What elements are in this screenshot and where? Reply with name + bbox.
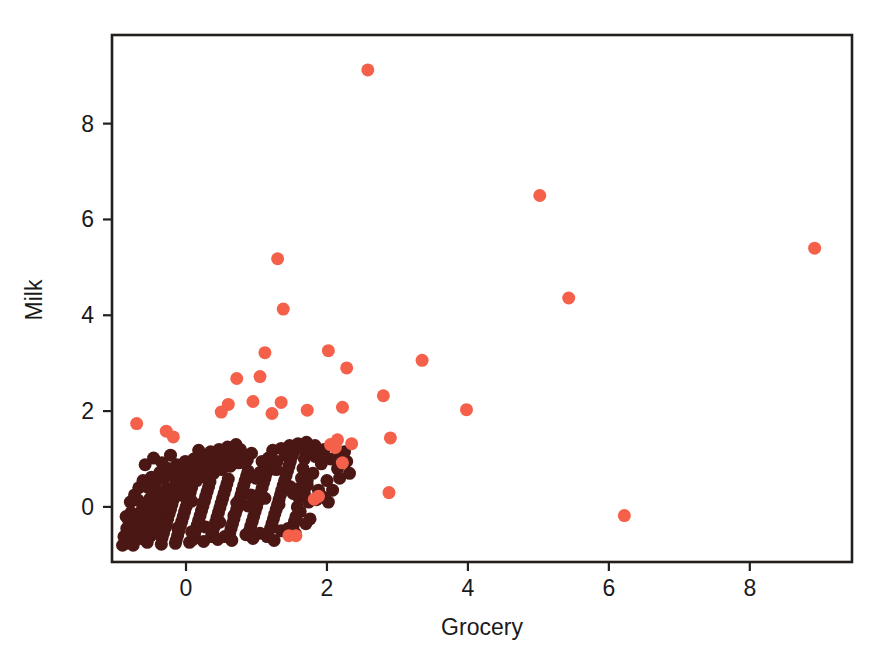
data-point	[213, 516, 226, 529]
data-point	[192, 444, 205, 457]
x-tick-label: 6	[602, 575, 615, 601]
data-point	[185, 525, 198, 538]
data-point	[562, 292, 575, 305]
y-tick-label: 6	[81, 206, 94, 232]
data-point	[155, 538, 168, 551]
data-point	[345, 437, 358, 450]
data-point	[120, 510, 133, 523]
data-point	[246, 395, 259, 408]
data-point	[130, 417, 143, 430]
data-point	[460, 403, 473, 416]
data-point	[132, 494, 145, 507]
data-point	[361, 63, 374, 76]
x-tick-label: 2	[321, 575, 334, 601]
data-point	[242, 499, 255, 512]
data-point	[197, 535, 210, 548]
scatter-plot-figure: 0246802468 Grocery Milk	[0, 0, 896, 670]
data-point	[169, 537, 182, 550]
data-point	[258, 346, 271, 359]
y-tick-label: 0	[81, 494, 94, 520]
data-point	[146, 484, 159, 497]
data-point	[246, 532, 259, 545]
y-tick-label: 8	[81, 111, 94, 137]
x-tick-label: 4	[462, 575, 475, 601]
data-point	[265, 407, 278, 420]
y-tick-label: 4	[81, 302, 94, 328]
data-point	[143, 514, 156, 527]
data-point	[225, 534, 238, 547]
data-point	[209, 455, 222, 468]
data-point	[164, 449, 177, 462]
data-point	[299, 517, 312, 530]
x-tick-label: 0	[180, 575, 193, 601]
data-point	[167, 430, 180, 443]
data-point	[254, 370, 267, 383]
data-point	[215, 406, 228, 419]
data-point	[160, 501, 173, 514]
data-point	[273, 498, 286, 511]
data-point	[416, 354, 429, 367]
data-point	[294, 505, 307, 518]
x-axis-title: Grocery	[441, 614, 523, 640]
data-point	[340, 361, 353, 374]
data-point	[308, 493, 321, 506]
data-point	[271, 252, 284, 265]
data-point	[256, 455, 269, 468]
plot-canvas: 0246802468 Grocery Milk	[0, 0, 896, 670]
data-point	[301, 474, 314, 487]
data-point	[230, 497, 243, 510]
figure-background	[0, 0, 896, 670]
data-point	[324, 438, 337, 451]
data-point	[176, 489, 189, 502]
data-point	[618, 509, 631, 522]
data-point	[301, 404, 314, 417]
data-point	[171, 521, 184, 534]
data-point	[808, 242, 821, 255]
data-point	[234, 443, 247, 456]
data-point	[258, 492, 271, 505]
data-point	[211, 533, 224, 546]
data-point	[382, 486, 395, 499]
data-point	[270, 463, 283, 476]
data-point	[245, 447, 258, 460]
data-point	[289, 529, 302, 542]
data-point	[127, 539, 140, 552]
data-point	[275, 396, 288, 409]
data-point	[533, 189, 546, 202]
data-point	[157, 519, 170, 532]
x-tick-label: 8	[743, 575, 756, 601]
y-axis-title: Milk	[21, 279, 47, 320]
data-point	[336, 401, 349, 414]
data-point	[322, 344, 335, 357]
data-point	[230, 372, 243, 385]
data-point	[384, 431, 397, 444]
data-point	[244, 488, 257, 501]
data-point	[313, 448, 326, 461]
data-point	[336, 456, 349, 469]
y-tick-label: 2	[81, 398, 94, 424]
data-point	[284, 480, 297, 493]
data-point	[377, 389, 390, 402]
data-point	[326, 484, 339, 497]
data-point	[277, 303, 290, 316]
data-point	[199, 521, 212, 534]
data-point	[141, 536, 154, 549]
data-point	[227, 509, 240, 522]
